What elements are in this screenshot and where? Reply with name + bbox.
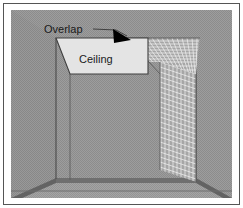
overlap-label: Overlap (44, 23, 83, 35)
baseboard-back (56, 178, 196, 183)
diagram-canvas: Ceiling Overlap (0, 0, 243, 208)
left-side-wall (11, 10, 56, 198)
wall-mesh (160, 62, 196, 182)
ceiling-label: Ceiling (79, 53, 113, 65)
room-corner-overlap-diagram: Ceiling Overlap (0, 0, 243, 208)
scene: Ceiling Overlap (11, 10, 232, 203)
